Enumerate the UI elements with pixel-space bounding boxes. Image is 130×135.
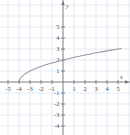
- y-tick-label: -4: [54, 122, 60, 129]
- x-tick-label: 2: [83, 85, 86, 92]
- graph-figure: 2. y x -5-4-3-2-11234554321-1-2-3-4-5: [0, 0, 130, 135]
- y-tick-label: 3: [56, 45, 59, 52]
- y-tick-label: 5: [56, 23, 59, 30]
- x-tick-label: -4: [16, 85, 22, 92]
- y-axis-label: y: [65, 2, 69, 9]
- cartesian-plot: y x -5-4-3-2-11234554321-1-2-3-4-5: [0, 0, 130, 135]
- x-tick-label: -2: [38, 85, 43, 92]
- y-tick-label: 1: [56, 67, 59, 74]
- y-tick-label: -1: [54, 89, 59, 96]
- x-tick-label: 1: [72, 85, 75, 92]
- x-axis-label: x: [119, 73, 123, 80]
- x-tick-label: 5: [116, 85, 119, 92]
- x-tick-label: -5: [5, 85, 10, 92]
- x-tick-label: -3: [27, 85, 32, 92]
- y-tick-label: -5: [54, 133, 59, 135]
- x-tick-label: 3: [94, 85, 97, 92]
- y-tick-label: -3: [54, 111, 59, 118]
- y-tick-label: -2: [54, 100, 59, 107]
- y-tick-label: 2: [56, 56, 59, 63]
